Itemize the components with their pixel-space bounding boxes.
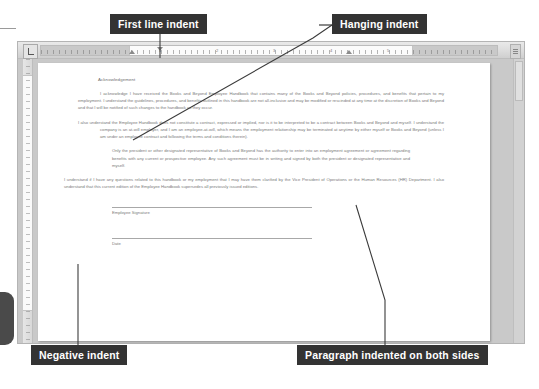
vertical-scrollbar-thumb[interactable]: [515, 61, 523, 101]
document-heading: Acknowledgement: [98, 77, 444, 82]
ruler-number-5: 5: [387, 48, 389, 53]
callout-first-line-indent: First line indent: [110, 14, 207, 34]
paragraph-indented-both-sides: Only the president or other designated r…: [112, 147, 410, 169]
page-edge-dash: [0, 28, 16, 29]
date-label: Date: [112, 239, 444, 246]
ruler-ctl-line-1: [513, 49, 518, 50]
paragraph-hanging-indent: I also understand the Employee Handbook …: [78, 119, 444, 141]
document-viewport[interactable]: Acknowledgement I acknowledge I have rec…: [18, 59, 524, 343]
employee-signature-label: Employee Signature: [112, 208, 444, 215]
ruler-number-2: 2: [216, 48, 218, 53]
paragraph-first-line-indent: I acknowledge I have received the Books …: [78, 90, 444, 112]
callout-both-sides-indent: Paragraph indented on both sides: [297, 345, 488, 365]
ruler-tick-marks: [41, 46, 497, 55]
ruler-number-4: 4: [330, 48, 332, 53]
horizontal-ruler[interactable]: 1 2 3 4 5: [18, 42, 524, 59]
vertical-scrollbar[interactable]: [513, 59, 524, 343]
signature-block: Employee Signature Date: [78, 206, 444, 246]
ruler-track[interactable]: 1 2 3 4 5: [40, 45, 498, 56]
document-page-content: Acknowledgement I acknowledge I have rec…: [38, 63, 490, 341]
word-application-frame: 1 2 3 4 5 Ackno: [17, 41, 525, 344]
paragraph-negative-indent: I understand if I have any questions rel…: [64, 176, 444, 190]
ruler-scroll-control[interactable]: [510, 44, 521, 59]
signature-spacer: [78, 215, 444, 237]
vertical-ruler[interactable]: [23, 59, 33, 343]
ruler-ctl-line-2: [513, 51, 518, 52]
figure-stage: 1 2 3 4 5 Ackno: [0, 0, 539, 389]
right-indent-marker[interactable]: [346, 50, 352, 54]
tab-stop-selector-icon[interactable]: [23, 44, 38, 59]
ruler-number-3: 3: [273, 48, 275, 53]
callout-negative-indent: Negative indent: [31, 345, 127, 365]
page-edge-tab: [0, 292, 14, 345]
vertical-ruler-tick-marks: [26, 59, 30, 343]
first-line-indent-marker[interactable]: [157, 47, 163, 51]
hanging-indent-marker[interactable]: [129, 50, 135, 54]
left-tab-stop-glyph: [28, 48, 34, 55]
ruler-ctl-line-3: [513, 53, 518, 54]
document-page[interactable]: Acknowledgement I acknowledge I have rec…: [38, 63, 490, 341]
callout-hanging-indent: Hanging indent: [332, 14, 427, 34]
